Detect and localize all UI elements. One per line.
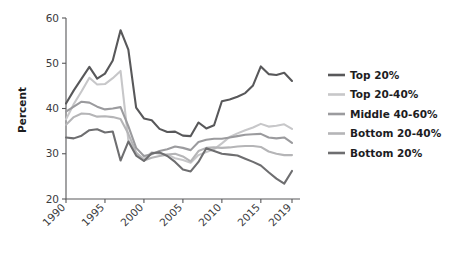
x-tick-label: 2005 [157, 201, 184, 228]
x-tick-label: 1995 [79, 201, 106, 228]
series-line-middle-40-60 [66, 102, 292, 156]
series-line-bottom-20 [66, 129, 292, 183]
x-tick-label: 2010 [196, 201, 223, 228]
chart-axes [62, 18, 300, 203]
series-line-bottom-20-40 [66, 113, 292, 161]
x-tick-label: 1990 [40, 201, 67, 228]
y-axis-title: Percent [16, 87, 28, 133]
y-tick-label: 20 [46, 193, 59, 205]
y-tick-label: 50 [46, 57, 59, 69]
y-axis-tick-labels: 2030405060 [46, 12, 59, 205]
y-tick-label: 40 [46, 102, 59, 114]
y-axis-title-text: Percent [16, 87, 28, 133]
legend-label-3: Middle 40-60% [350, 108, 438, 120]
y-tick-label: 30 [46, 147, 59, 159]
legend-label-4: Bottom 20-40% [350, 127, 442, 139]
x-tick-label: 2015 [235, 201, 262, 228]
chart-container: 1990199520002005201020152019 2030405060 … [0, 0, 461, 253]
x-tick-label: 2000 [118, 201, 145, 228]
chart-legend: Top 20%Top 20-40%Middle 40-60%Bottom 20-… [328, 69, 442, 159]
x-tick-label: 2019 [266, 201, 293, 228]
y-tick-label: 60 [46, 12, 59, 24]
legend-label-2: Top 20-40% [350, 88, 419, 100]
series-line-top-20 [66, 30, 292, 136]
legend-label-1: Top 20% [350, 69, 400, 81]
legend-label-5: Bottom 20% [350, 147, 423, 159]
line-chart: 1990199520002005201020152019 2030405060 … [0, 0, 461, 253]
x-axis-tick-labels: 1990199520002005201020152019 [40, 201, 293, 228]
chart-series [66, 30, 292, 183]
